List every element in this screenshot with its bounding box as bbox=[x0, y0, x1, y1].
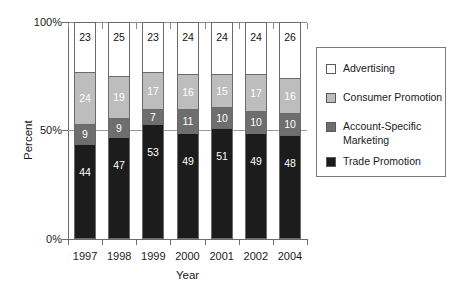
legend-swatch-icon bbox=[326, 93, 336, 103]
x-tick-mark-top bbox=[307, 23, 308, 29]
segment-value-label: 26 bbox=[284, 32, 296, 43]
segment-consumer-promotion: 15 bbox=[211, 74, 233, 107]
y-tick-label-0: 0% bbox=[28, 233, 62, 245]
legend-item-consumer-promotion[interactable]: Consumer Promotion bbox=[326, 91, 442, 105]
segment-advertising: 24 bbox=[245, 22, 267, 74]
segment-trade-promotion: 51 bbox=[211, 128, 233, 239]
segment-value-label: 49 bbox=[182, 156, 194, 167]
x-tick-mark bbox=[273, 240, 274, 245]
x-tick-mark bbox=[205, 240, 206, 245]
segment-value-label: 15 bbox=[216, 86, 228, 97]
legend-label: Account-Specific Marketing bbox=[343, 120, 421, 147]
segment-value-label: 9 bbox=[82, 129, 88, 140]
segment-consumer-promotion: 19 bbox=[108, 76, 130, 117]
x-tick-mark bbox=[68, 240, 69, 245]
legend-item-advertising[interactable]: Advertising bbox=[326, 62, 395, 76]
segment-trade-promotion: 49 bbox=[245, 133, 267, 239]
legend-label: Advertising bbox=[343, 62, 395, 76]
x-tick-mark-top bbox=[205, 23, 206, 29]
bar-2002: 49101724 bbox=[245, 22, 267, 239]
segment-value-label: 24 bbox=[182, 32, 194, 43]
segment-value-label: 24 bbox=[216, 32, 228, 43]
bar-1998: 4791925 bbox=[108, 22, 130, 239]
segment-consumer-promotion: 17 bbox=[245, 74, 267, 111]
x-tick-label-1998: 1998 bbox=[102, 250, 136, 262]
segment-trade-promotion: 47 bbox=[108, 137, 130, 239]
axis-left-line bbox=[68, 22, 69, 240]
bar-2000: 49111624 bbox=[177, 22, 199, 239]
legend-swatch-icon bbox=[326, 64, 336, 74]
x-tick-mark bbox=[307, 240, 308, 245]
segment-value-label: 10 bbox=[284, 119, 296, 130]
segment-advertising: 24 bbox=[211, 22, 233, 74]
segment-value-label: 7 bbox=[150, 112, 156, 123]
segment-value-label: 25 bbox=[113, 32, 125, 43]
segment-account-specific-marketing: 10 bbox=[279, 113, 301, 135]
legend-swatch-icon bbox=[326, 122, 336, 132]
x-tick-mark bbox=[102, 240, 103, 245]
x-tick-mark-top bbox=[239, 23, 240, 29]
x-tick-mark-top bbox=[170, 23, 171, 29]
legend-swatch-icon bbox=[326, 157, 336, 167]
segment-trade-promotion: 49 bbox=[177, 133, 199, 239]
segment-value-label: 49 bbox=[250, 156, 262, 167]
segment-value-label: 24 bbox=[79, 93, 91, 104]
stacked-bar-chart: Percent 100% 50% 0% 44924234791925537172… bbox=[0, 0, 454, 294]
segment-trade-promotion: 53 bbox=[142, 124, 164, 239]
chart-legend: AdvertisingConsumer PromotionAccount-Spe… bbox=[316, 47, 446, 177]
segment-value-label: 23 bbox=[79, 32, 91, 43]
segment-consumer-promotion: 16 bbox=[177, 74, 199, 109]
segment-trade-promotion: 48 bbox=[279, 135, 301, 239]
x-tick-label-2000: 2000 bbox=[171, 250, 205, 262]
segment-trade-promotion: 44 bbox=[74, 144, 96, 239]
segment-account-specific-marketing: 9 bbox=[74, 124, 96, 144]
segment-account-specific-marketing: 9 bbox=[108, 118, 130, 138]
segment-value-label: 10 bbox=[216, 113, 228, 124]
x-axis-title: Year bbox=[0, 269, 375, 281]
bar-2001: 51101524 bbox=[211, 22, 233, 239]
segment-value-label: 17 bbox=[250, 88, 262, 99]
x-tick-label-1999: 1999 bbox=[136, 250, 170, 262]
segment-consumer-promotion: 24 bbox=[74, 72, 96, 124]
y-tick-label-100: 100% bbox=[28, 16, 62, 28]
x-tick-label-1997: 1997 bbox=[68, 250, 102, 262]
x-tick-mark bbox=[170, 240, 171, 245]
x-tick-label-2002: 2002 bbox=[239, 250, 273, 262]
axis-bottom-line bbox=[68, 239, 308, 240]
segment-advertising: 24 bbox=[177, 22, 199, 74]
legend-label: Consumer Promotion bbox=[343, 91, 442, 105]
segment-value-label: 17 bbox=[147, 86, 159, 97]
bar-2004: 48101626 bbox=[279, 22, 301, 239]
segment-advertising: 23 bbox=[142, 22, 164, 72]
segment-value-label: 10 bbox=[250, 117, 262, 128]
segment-value-label: 16 bbox=[182, 87, 194, 98]
segment-value-label: 11 bbox=[183, 116, 194, 127]
segment-account-specific-marketing: 10 bbox=[245, 111, 267, 133]
y-tick-mark-50 bbox=[62, 130, 68, 131]
bar-1999: 5371723 bbox=[142, 22, 164, 239]
legend-item-account-specific-marketing[interactable]: Account-Specific Marketing bbox=[326, 120, 421, 147]
x-tick-mark-top bbox=[102, 23, 103, 29]
segment-account-specific-marketing: 11 bbox=[177, 109, 199, 133]
segment-consumer-promotion: 16 bbox=[279, 78, 301, 113]
y-tick-label-50: 50% bbox=[28, 124, 62, 136]
x-tick-mark-top bbox=[273, 23, 274, 29]
segment-advertising: 25 bbox=[108, 22, 130, 76]
x-tick-mark bbox=[239, 240, 240, 245]
x-tick-mark-top bbox=[136, 23, 137, 29]
x-tick-label-2001: 2001 bbox=[205, 250, 239, 262]
segment-advertising: 26 bbox=[279, 22, 301, 78]
x-tick-mark-top bbox=[68, 23, 69, 29]
plot-area: 4492423479192553717234911162451101524491… bbox=[68, 22, 307, 240]
segment-value-label: 53 bbox=[147, 147, 159, 158]
segment-account-specific-marketing: 10 bbox=[211, 107, 233, 129]
x-tick-label-2004: 2004 bbox=[273, 250, 307, 262]
bar-1997: 4492423 bbox=[74, 22, 96, 239]
segment-advertising: 23 bbox=[74, 22, 96, 72]
legend-label: Trade Promotion bbox=[343, 155, 421, 169]
segment-value-label: 23 bbox=[147, 32, 159, 43]
segment-value-label: 9 bbox=[116, 123, 122, 134]
segment-value-label: 51 bbox=[216, 151, 228, 162]
segment-value-label: 24 bbox=[250, 32, 262, 43]
legend-item-trade-promotion[interactable]: Trade Promotion bbox=[326, 155, 421, 169]
